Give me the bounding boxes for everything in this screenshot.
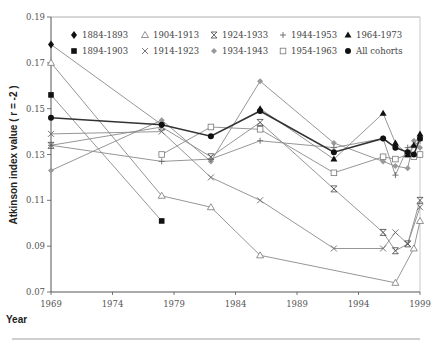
triangle-open-marker-icon xyxy=(410,245,417,251)
legend-label: 1894-1903 xyxy=(82,46,128,56)
circle-filled-marker-icon xyxy=(392,145,398,151)
square-open-marker-icon xyxy=(208,124,214,130)
legend-item: 1954-1963 xyxy=(280,46,337,56)
series-line-1934-1943 xyxy=(51,81,420,170)
circle-filled-marker-icon xyxy=(411,152,417,158)
legend-label: 1914-1923 xyxy=(153,46,199,56)
square-filled-marker-icon xyxy=(48,92,54,98)
legend-item: 1904-1913 xyxy=(142,30,200,40)
x-tick-label: 1984 xyxy=(225,299,247,309)
legend-label: 1944-1953 xyxy=(291,30,337,40)
plus-marker-icon xyxy=(257,138,263,144)
x-marker-icon xyxy=(142,48,148,54)
legend: 1884-18931904-19131924-19331944-19531964… xyxy=(71,30,403,56)
y-tick-label: 0.17 xyxy=(26,58,45,68)
circle-filled-marker-icon xyxy=(380,135,386,141)
square-open-marker-icon xyxy=(331,170,337,176)
square-open-marker-icon xyxy=(393,156,399,162)
circle-filled-marker-icon xyxy=(208,133,214,139)
legend-label: 1964-1973 xyxy=(356,30,402,40)
asterisk-marker-icon xyxy=(257,119,263,125)
square-open-marker-icon xyxy=(159,152,165,158)
x-axis-ticks: 1969197419791984198919941999 xyxy=(40,292,431,309)
x-tick-label: 1974 xyxy=(102,299,124,309)
triangle-filled-marker-icon xyxy=(380,110,387,116)
circle-filled-marker-icon xyxy=(405,149,411,155)
circle-filled-marker-icon xyxy=(48,115,54,121)
series-line-1884-1893 xyxy=(51,45,162,125)
square-open-marker-icon xyxy=(380,154,386,160)
diamond-gray-marker-icon xyxy=(48,168,54,174)
diamond-filled-marker-icon xyxy=(71,31,77,39)
diamond-gray-marker-icon xyxy=(405,165,411,171)
x-tick-label: 1999 xyxy=(409,299,431,309)
triangle-open-marker-icon xyxy=(142,32,149,38)
plus-marker-icon xyxy=(159,158,165,164)
x-marker-icon xyxy=(257,197,263,203)
y-tick-label: 0.09 xyxy=(26,241,45,251)
legend-item: 1934-1943 xyxy=(211,46,268,56)
triangle-open-marker-icon xyxy=(48,59,55,65)
x-marker-icon xyxy=(392,229,398,235)
series-lines xyxy=(51,45,420,283)
x-tick-label: 1994 xyxy=(348,299,370,309)
series-line-1964-1973 xyxy=(260,109,420,159)
circle-filled-marker-icon xyxy=(159,122,165,128)
legend-item: 1884-1893 xyxy=(71,30,128,40)
legend-label: All cohorts xyxy=(355,46,403,56)
series-line-1894-1903 xyxy=(51,95,162,221)
legend-item: 1964-1973 xyxy=(345,30,403,40)
legend-item: All cohorts xyxy=(345,46,403,56)
legend-item: 1944-1953 xyxy=(280,30,337,40)
circle-filled-marker-icon xyxy=(345,48,351,54)
x-marker-icon xyxy=(208,174,214,180)
triangle-filled-marker-icon xyxy=(345,32,352,38)
asterisk-marker-icon xyxy=(380,229,386,235)
asterisk-marker-icon xyxy=(331,186,337,192)
atkinson-index-chart: 0.070.090.110.130.150.170.19 19691974197… xyxy=(0,0,440,345)
legend-item: 1924-1933 xyxy=(211,30,268,40)
square-open-marker-icon xyxy=(417,152,423,158)
asterisk-marker-icon xyxy=(211,32,217,38)
circle-filled-marker-icon xyxy=(331,149,337,155)
asterisk-marker-icon xyxy=(392,248,398,254)
diamond-filled-marker-icon xyxy=(48,41,54,49)
square-filled-marker-icon xyxy=(71,48,77,54)
square-filled-marker-icon xyxy=(159,218,165,224)
x-tick-label: 1969 xyxy=(40,299,62,309)
circle-filled-marker-icon xyxy=(257,108,263,114)
asterisk-marker-icon xyxy=(405,241,411,247)
legend-label: 1904-1913 xyxy=(153,30,199,40)
legend-label: 1934-1943 xyxy=(222,46,268,56)
legend-label: 1884-1893 xyxy=(82,30,128,40)
legend-label: 1954-1963 xyxy=(291,46,337,56)
x-axis-title: Year xyxy=(6,314,27,325)
y-tick-label: 0.19 xyxy=(26,12,45,22)
triangle-open-marker-icon xyxy=(417,217,424,223)
y-axis-ticks: 0.070.090.110.130.150.170.19 xyxy=(26,12,51,297)
diamond-gray-marker-icon xyxy=(211,48,217,54)
triangle-filled-marker-icon xyxy=(410,142,417,148)
plus-marker-icon xyxy=(392,172,398,178)
y-tick-label: 0.07 xyxy=(26,287,45,297)
x-tick-label: 1989 xyxy=(286,299,308,309)
plus-marker-icon xyxy=(280,32,286,38)
circle-filled-marker-icon xyxy=(417,135,423,141)
x-tick-label: 1979 xyxy=(163,299,185,309)
square-open-marker-icon xyxy=(280,48,286,54)
y-axis-title: Atkinson index value ( r = -2 ) xyxy=(8,85,19,224)
square-open-marker-icon xyxy=(257,126,263,132)
legend-item: 1894-1903 xyxy=(71,46,128,56)
series-line-1904-1913 xyxy=(51,63,420,283)
y-tick-label: 0.11 xyxy=(26,195,45,205)
y-tick-label: 0.15 xyxy=(26,104,45,114)
legend-item: 1914-1923 xyxy=(142,46,199,56)
y-tick-label: 0.13 xyxy=(26,150,45,160)
legend-label: 1924-1933 xyxy=(222,30,268,40)
